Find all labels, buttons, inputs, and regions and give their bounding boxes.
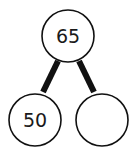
connector-right — [79, 61, 94, 92]
part-left-value: 50 — [23, 109, 47, 131]
number-bond-diagram: 65 50 — [0, 0, 136, 153]
part-right-circle[interactable] — [76, 94, 128, 146]
connector-left — [43, 61, 58, 92]
whole-value: 65 — [56, 25, 80, 47]
